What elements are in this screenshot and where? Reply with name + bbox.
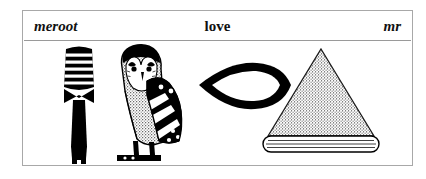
translation-label: love: [23, 16, 412, 36]
glyph-strip: [23, 41, 412, 165]
page-root: meroot love mr: [0, 0, 426, 179]
chisel-hieroglyph: [53, 43, 105, 165]
root-label: mr: [383, 16, 401, 36]
pyramid-hieroglyph: [261, 41, 383, 165]
hieroglyph-panel: meroot love mr: [22, 10, 413, 166]
panel-header: meroot love mr: [23, 11, 412, 41]
owl-hieroglyph: [109, 41, 189, 165]
